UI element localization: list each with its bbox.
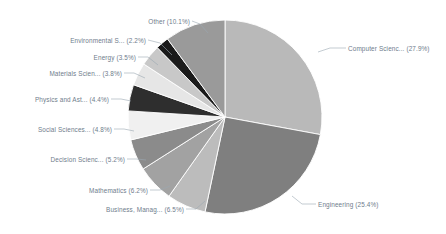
pie-slice[interactable]	[225, 20, 322, 135]
slice-label-physics: Physics and Ast... (4.4%)	[35, 96, 109, 104]
slice-label-computer-science: Computer Scienc... (27.9%)	[348, 45, 430, 53]
pie-chart-container: Computer Scienc... (27.9%) Engineering (…	[0, 0, 446, 234]
leader-line-computer-science	[318, 48, 346, 52]
slice-label-mathematics: Mathematics (6.2%)	[89, 187, 148, 195]
slice-label-business: Business, Manag... (6.5%)	[106, 206, 184, 214]
pie-slices-group	[128, 20, 322, 214]
leader-line-physics	[111, 99, 131, 101]
slice-label-environmental-science: Environmental S... (2.2%)	[70, 37, 146, 45]
slice-label-energy: Energy (3.5%)	[94, 54, 136, 62]
slice-label-materials-science: Materials Scien... (3.8%)	[49, 70, 122, 78]
slice-label-engineering: Engineering (25.4%)	[318, 201, 379, 209]
slice-label-other: Other (10.1%)	[148, 18, 190, 26]
pie-chart-svg: Computer Scienc... (27.9%) Engineering (…	[0, 0, 446, 234]
slice-label-decision-sciences: Decision Scienc... (5.2%)	[51, 156, 125, 164]
leader-line-engineering	[292, 196, 316, 204]
slice-label-social-sciences: Social Sciences... (4.8%)	[38, 126, 112, 134]
